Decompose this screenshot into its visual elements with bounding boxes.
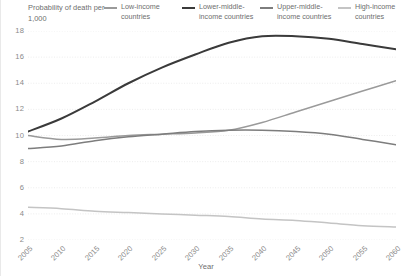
chart-legend: Low-income countries Lower-middle- incom… (104, 2, 410, 28)
chart-figure: Probability of death per 1,000 Low-incom… (0, 0, 412, 277)
y-axis-tick-label: 16 (2, 52, 24, 61)
legend-item-high-income[interactable]: High-income countries (338, 2, 410, 22)
legend-label-low-income: Low-income countries (121, 2, 160, 22)
figure-left-border (0, 0, 1, 277)
legend-label-high-income: High-income countries (355, 2, 395, 22)
legend-item-lower-middle-income[interactable]: Lower-middle- income countries (182, 2, 260, 22)
y-axis-tick-label: 8 (2, 157, 24, 166)
x-axis-tick-label: 2005 (0, 244, 34, 277)
y-axis-tick-label: 6 (2, 183, 24, 192)
legend-swatch-high-income (338, 7, 351, 9)
chart-header: Probability of death per 1,000 Low-incom… (0, 0, 412, 30)
legend-label-upper-middle-income: Upper-middle- income countries (277, 2, 331, 22)
legend-swatch-lower-middle-income (182, 7, 195, 9)
legend-item-upper-middle-income[interactable]: Upper-middle- income countries (260, 2, 338, 22)
y-axis-tick-label: 4 (2, 209, 24, 218)
y-axis-tick-label: 18 (2, 26, 24, 35)
legend-swatch-low-income (104, 7, 117, 9)
legend-swatch-upper-middle-income (260, 7, 273, 9)
legend-item-low-income[interactable]: Low-income countries (104, 2, 182, 22)
y-axis-tick-label: 12 (2, 104, 24, 113)
y-axis-tick-label: 2 (2, 235, 24, 244)
series-lines (28, 36, 396, 227)
y-axis-tick-label: 10 (2, 131, 24, 140)
series-line (28, 207, 396, 227)
y-axis-tick-label: 14 (2, 78, 24, 87)
x-axis-title: Year (0, 262, 412, 271)
plot-area (28, 31, 396, 240)
plot-svg (28, 31, 396, 240)
legend-label-lower-middle-income: Lower-middle- income countries (199, 2, 253, 22)
